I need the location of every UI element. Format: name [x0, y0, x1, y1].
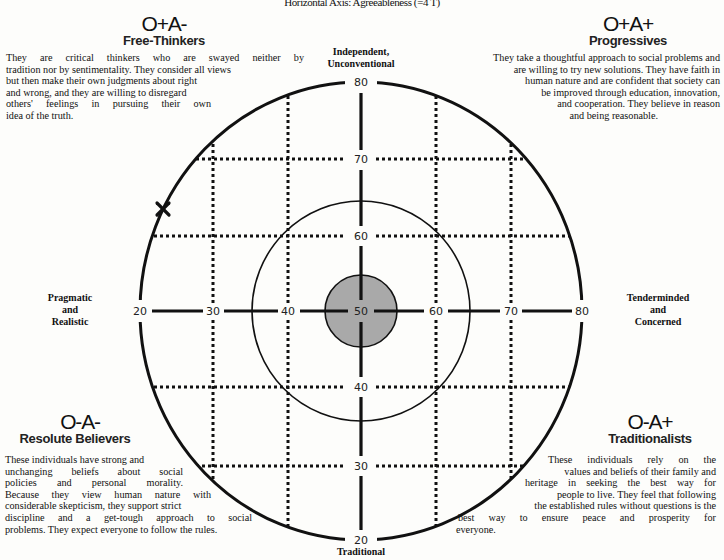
quadrant-name: Resolute Believers [10, 431, 140, 446]
tick-h-80: 80 [575, 305, 589, 318]
pole-right-label: Tenderminded and Concerned [608, 292, 708, 328]
tick-h-50: 50 [354, 305, 368, 318]
pole-top-label: Independent, Unconventional [300, 46, 422, 70]
quadrant-bottom-left-header: O-A- Resolute Believers [20, 410, 140, 446]
quadrant-top-right-description: They take a thoughtful approach to socia… [493, 52, 720, 122]
quadrant-name: Progressives [568, 33, 688, 48]
tick-h-70: 70 [504, 305, 518, 318]
quadrant-name: Free-Thinkers [104, 33, 224, 48]
pole-bottom-label: Traditional [300, 546, 422, 558]
quadrant-bottom-right-description: These individuals rely on the values and… [458, 454, 716, 535]
x-marker [157, 203, 169, 215]
tick-h-30: 30 [206, 305, 220, 318]
quadrant-bottom-left-description: These individuals have strong and unchan… [5, 454, 252, 535]
quadrant-top-right-header: O+A+ Progressives [568, 12, 688, 48]
tick-v-80: 80 [354, 76, 368, 89]
tick-v-70: 70 [354, 153, 368, 166]
quadrant-top-left-description: They are critical thinkers who are swaye… [6, 52, 304, 122]
tick-v-60: 60 [354, 230, 368, 243]
tick-v-30: 30 [354, 460, 368, 473]
quadrant-top-left-header: O+A- Free-Thinkers [104, 12, 224, 48]
tick-h-20: 20 [133, 305, 147, 318]
tick-h-60: 60 [429, 305, 443, 318]
quadrant-name: Traditionalists [590, 431, 710, 446]
pole-left-label: Pragmatic and Realistic [30, 292, 110, 328]
tick-v-40: 40 [354, 381, 368, 394]
quadrant-bottom-right-header: O-A+ Traditionalists [590, 410, 710, 446]
tick-h-40: 40 [281, 305, 295, 318]
